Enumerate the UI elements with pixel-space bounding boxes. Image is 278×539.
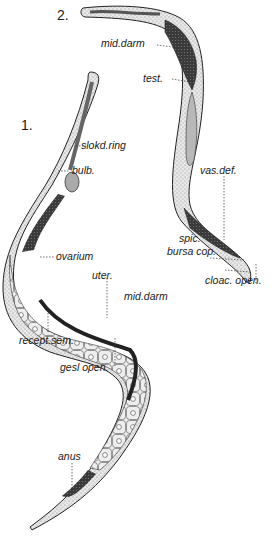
specimen-2-number: 2. (57, 8, 69, 22)
label-anus: anus (58, 451, 81, 462)
specimen-1-number: 1. (21, 118, 33, 132)
label-spic: spic. (179, 233, 201, 244)
label-slokd-ring: slokd.ring (81, 140, 126, 151)
nematode-illustration (0, 0, 278, 539)
label-cloac-open: cloac. open. (205, 275, 262, 286)
label-recept-sem: recept.sem. (19, 335, 74, 346)
label-gesl-open: gesl open. (60, 362, 108, 373)
label-vas-def: vas.def. (200, 165, 237, 176)
label-ovarium: ovarium (56, 251, 93, 262)
leader-lines (40, 45, 256, 490)
label-mid-darm-1: mid.darm (124, 291, 168, 302)
label-bursa-cop: bursa cop. (167, 246, 216, 257)
label-bulb: bulb. (72, 165, 95, 176)
label-mid-darm-2: mid.darm (101, 38, 145, 49)
label-test: test. (143, 73, 163, 84)
label-uter: uter. (92, 270, 113, 281)
